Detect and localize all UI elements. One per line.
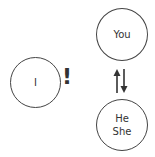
node-i-label: I bbox=[34, 76, 37, 89]
node-i: I bbox=[10, 57, 61, 108]
node-she-label: She bbox=[113, 125, 132, 138]
exclamation-mark: ! bbox=[62, 64, 72, 90]
node-you: You bbox=[96, 8, 148, 61]
node-you-label: You bbox=[113, 28, 130, 41]
node-he-she: He She bbox=[96, 99, 148, 151]
up-down-arrows-icon bbox=[111, 68, 131, 94]
node-he-label: He bbox=[115, 112, 129, 125]
